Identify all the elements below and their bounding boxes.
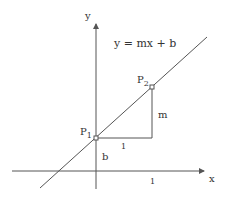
run-label: 1: [121, 142, 126, 151]
equation-label: y = mx + b: [113, 37, 176, 50]
intercept-label: b: [102, 151, 108, 162]
rise-label: m: [158, 109, 168, 120]
linear-function-line: [40, 37, 207, 188]
y-axis-label: y: [84, 10, 91, 21]
point-p1-label: P1: [80, 126, 92, 140]
point-p1-marker: [94, 136, 98, 140]
slope-intercept-diagram: y x 1 y = mx + b P1 P2 1 m b: [0, 0, 226, 201]
x-axis-label: x: [209, 173, 215, 184]
point-p2-label: P2: [137, 74, 149, 88]
point-p2-marker: [150, 85, 154, 89]
x-tick-label: 1: [150, 177, 155, 186]
